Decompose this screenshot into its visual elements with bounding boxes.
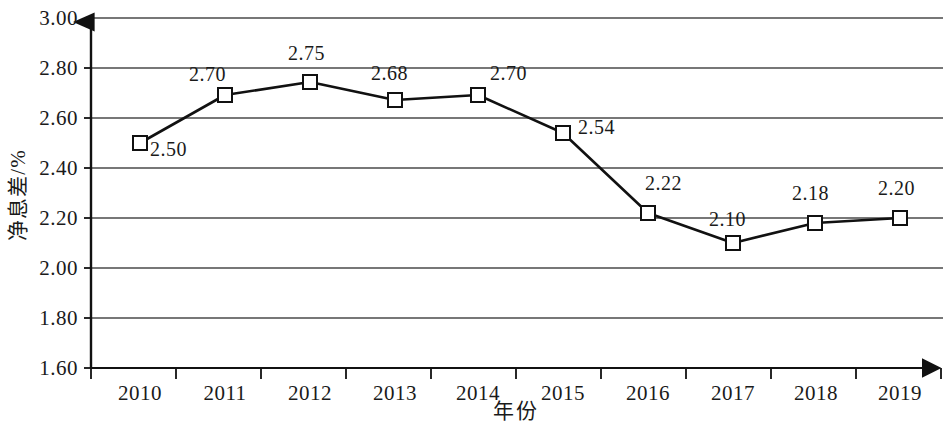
data-marker	[893, 211, 907, 225]
x-axis-ticks	[91, 368, 941, 379]
x-tick-label-2013: 2013	[373, 381, 417, 406]
y-tick-label-3-00: 3.00	[6, 6, 78, 31]
x-tick-label-2011: 2011	[203, 381, 246, 406]
data-marker	[471, 88, 485, 102]
line-chart: 3.00 2.80 2.60 2.40 2.20 2.00 1.80 1.60 …	[0, 0, 943, 423]
y-axis-title: 净息差/%	[1, 135, 31, 255]
point-label-2010: 2.50	[150, 138, 187, 161]
data-marker	[133, 136, 147, 150]
y-tick-label-2-80: 2.80	[6, 56, 78, 81]
y-tick-label-1-60: 1.60	[6, 356, 78, 381]
x-tick-label-2017: 2017	[711, 381, 755, 406]
x-axis-title: 年份	[493, 394, 539, 423]
x-tick-label-2019: 2019	[878, 381, 922, 406]
point-label-2018: 2.18	[792, 182, 829, 205]
data-marker	[726, 236, 740, 250]
data-marker	[303, 75, 317, 89]
point-label-2015: 2.54	[578, 116, 615, 139]
data-series-line	[140, 82, 900, 243]
data-markers	[133, 75, 907, 250]
x-tick-label-2010: 2010	[118, 381, 162, 406]
x-tick-label-2016: 2016	[626, 381, 670, 406]
data-marker	[808, 216, 822, 230]
point-label-2016: 2.22	[645, 172, 682, 195]
point-label-2012: 2.75	[288, 42, 325, 65]
point-label-2011: 2.70	[189, 63, 226, 86]
data-marker	[556, 126, 570, 140]
point-label-2013: 2.68	[371, 62, 408, 85]
data-marker	[388, 93, 402, 107]
point-label-2017: 2.10	[709, 208, 746, 231]
chart-canvas	[0, 0, 943, 423]
y-tick-label-1-80: 1.80	[6, 306, 78, 331]
y-tick-label-2-00: 2.00	[6, 256, 78, 281]
data-marker	[641, 206, 655, 220]
point-label-2019: 2.20	[878, 177, 915, 200]
x-tick-label-2012: 2012	[288, 381, 332, 406]
data-marker	[218, 88, 232, 102]
x-tick-label-2018: 2018	[794, 381, 838, 406]
x-tick-label-2015: 2015	[541, 381, 585, 406]
y-tick-label-2-60: 2.60	[6, 106, 78, 131]
point-label-2014: 2.70	[490, 62, 527, 85]
